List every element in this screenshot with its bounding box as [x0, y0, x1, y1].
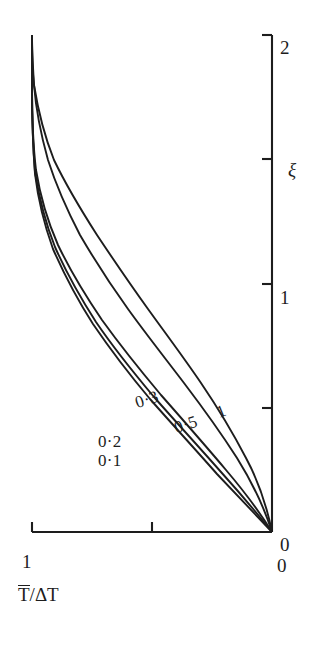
chart-svg	[0, 0, 310, 648]
x-axis-tick-label-0: 0	[280, 535, 290, 554]
y-axis-title-denominator: ΔT	[35, 584, 59, 605]
curve-label-0p1: 0·1	[98, 452, 122, 469]
x-axis	[262, 35, 272, 532]
plot-area: 0 1 0 1 2 ξ T/ΔT 0·1 0·2 0·3 0·5 1	[0, 0, 310, 648]
curve-0p5	[32, 35, 272, 532]
x-axis-tick-label-2: 2	[280, 38, 290, 57]
y-axis-tick-label-0: 0	[277, 556, 287, 575]
rotated-plot-frame: 0 1 0 1 2 ξ T/ΔT 0·1 0·2 0·3 0·5 1	[0, 0, 310, 648]
curve-label-0p2: 0·2	[98, 433, 122, 450]
y-axis-title-numerator: T	[18, 584, 30, 604]
x-axis-title: ξ	[288, 160, 296, 179]
y-axis-title: T/ΔT	[18, 584, 59, 604]
y-axis	[32, 522, 272, 532]
y-axis-tick-label-1: 1	[22, 552, 32, 571]
figure-canvas: 0 1 0 1 2 ξ T/ΔT 0·1 0·2 0·3 0·5 1	[0, 0, 310, 648]
x-axis-tick-label-1: 1	[280, 288, 290, 307]
